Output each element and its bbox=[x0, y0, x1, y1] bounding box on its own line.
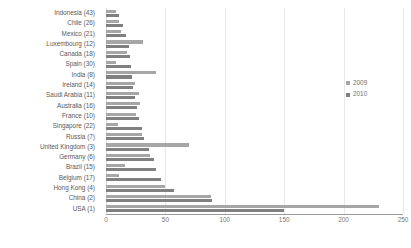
bar-2010 bbox=[106, 55, 130, 58]
bar-row bbox=[106, 39, 403, 49]
bar-2010 bbox=[106, 137, 144, 140]
bar-row bbox=[106, 173, 403, 183]
x-tick-label: 50 bbox=[162, 216, 169, 223]
x-tick-label: 0 bbox=[104, 216, 108, 223]
category-label: Canada (18) bbox=[0, 49, 100, 59]
bar-chart: Indonesia (43)Chile (26)Mexico (21)Luxem… bbox=[0, 0, 411, 248]
bar-2010 bbox=[106, 45, 129, 48]
bar-2010 bbox=[106, 209, 284, 212]
bar-2009 bbox=[106, 164, 125, 167]
bar-row bbox=[106, 121, 403, 131]
bar-2009 bbox=[106, 71, 156, 74]
category-label: Ireland (14) bbox=[0, 80, 100, 90]
category-label: Germany (6) bbox=[0, 152, 100, 162]
category-label: Australia (16) bbox=[0, 101, 100, 111]
bar-row bbox=[106, 152, 403, 162]
bar-row bbox=[106, 142, 403, 152]
plot-area bbox=[106, 8, 403, 214]
bar-2010 bbox=[106, 96, 135, 99]
category-label: Spain (30) bbox=[0, 59, 100, 69]
category-label: Saudi Arabia (11) bbox=[0, 90, 100, 100]
bar-row bbox=[106, 8, 403, 18]
bar-2009 bbox=[106, 195, 211, 198]
bar-row bbox=[106, 111, 403, 121]
bar-2009 bbox=[106, 102, 140, 105]
legend-swatch-icon bbox=[346, 93, 350, 97]
bar-row bbox=[106, 183, 403, 193]
legend-item[interactable]: 2010 bbox=[346, 91, 367, 97]
bar-2010 bbox=[106, 117, 139, 120]
bar-row bbox=[106, 29, 403, 39]
bar-2009 bbox=[106, 10, 116, 13]
bar-2009 bbox=[106, 154, 150, 157]
x-tick-label: 150 bbox=[279, 216, 290, 223]
gridline bbox=[403, 8, 404, 214]
bar-2009 bbox=[106, 123, 118, 126]
bar-rows bbox=[106, 8, 403, 214]
x-tick-label: 250 bbox=[398, 216, 409, 223]
category-label: Chile (26) bbox=[0, 18, 100, 28]
legend-label: 2009 bbox=[353, 80, 367, 86]
x-tick-label: 100 bbox=[219, 216, 230, 223]
bar-2009 bbox=[106, 113, 136, 116]
bar-2009 bbox=[106, 51, 127, 54]
legend-swatch-icon bbox=[346, 81, 350, 85]
category-label: China (2) bbox=[0, 193, 100, 203]
bar-2009 bbox=[106, 205, 379, 208]
category-label: Indonesia (43) bbox=[0, 8, 100, 18]
bar-2009 bbox=[106, 92, 139, 95]
bar-2010 bbox=[106, 65, 131, 68]
bar-2010 bbox=[106, 24, 123, 27]
bar-2010 bbox=[106, 199, 212, 202]
bar-2009 bbox=[106, 30, 121, 33]
bar-2010 bbox=[106, 14, 119, 17]
x-tick-label: 200 bbox=[338, 216, 349, 223]
category-label: Belgium (17) bbox=[0, 173, 100, 183]
category-label: France (10) bbox=[0, 111, 100, 121]
bar-2009 bbox=[106, 82, 135, 85]
bar-row bbox=[106, 101, 403, 111]
bar-2009 bbox=[106, 20, 119, 23]
category-label: USA (1) bbox=[0, 204, 100, 214]
bar-row bbox=[106, 204, 403, 214]
bar-2009 bbox=[106, 185, 165, 188]
category-label: Luxembourg (12) bbox=[0, 39, 100, 49]
x-axis-tick-labels: 050100150200250 bbox=[106, 216, 403, 230]
category-label: Mexico (21) bbox=[0, 29, 100, 39]
category-label: Russia (7) bbox=[0, 132, 100, 142]
bar-2010 bbox=[106, 127, 142, 130]
bar-row bbox=[106, 132, 403, 142]
bar-2010 bbox=[106, 158, 154, 161]
bar-2010 bbox=[106, 106, 137, 109]
bar-2009 bbox=[106, 143, 189, 146]
bar-2010 bbox=[106, 178, 161, 181]
legend: 20092010 bbox=[346, 80, 367, 98]
category-label: Brazil (15) bbox=[0, 162, 100, 172]
bar-2009 bbox=[106, 61, 116, 64]
bar-row bbox=[106, 49, 403, 59]
category-label: Singapore (22) bbox=[0, 121, 100, 131]
bar-2009 bbox=[106, 174, 119, 177]
legend-label: 2010 bbox=[353, 91, 367, 97]
bar-2010 bbox=[106, 34, 126, 37]
category-axis-labels: Indonesia (43)Chile (26)Mexico (21)Luxem… bbox=[0, 8, 100, 214]
bar-2010 bbox=[106, 75, 132, 78]
bar-row bbox=[106, 162, 403, 172]
bar-2010 bbox=[106, 168, 156, 171]
bar-2010 bbox=[106, 148, 149, 151]
legend-item[interactable]: 2009 bbox=[346, 80, 367, 86]
bar-2010 bbox=[106, 86, 133, 89]
bar-row bbox=[106, 18, 403, 28]
bar-2009 bbox=[106, 133, 142, 136]
bar-2009 bbox=[106, 40, 143, 43]
category-label: Hong Kong (4) bbox=[0, 183, 100, 193]
bar-2010 bbox=[106, 189, 174, 192]
bar-row bbox=[106, 193, 403, 203]
bar-row bbox=[106, 59, 403, 69]
x-axis-line bbox=[106, 214, 403, 215]
category-label: India (8) bbox=[0, 70, 100, 80]
category-label: United Kingdom (3) bbox=[0, 142, 100, 152]
